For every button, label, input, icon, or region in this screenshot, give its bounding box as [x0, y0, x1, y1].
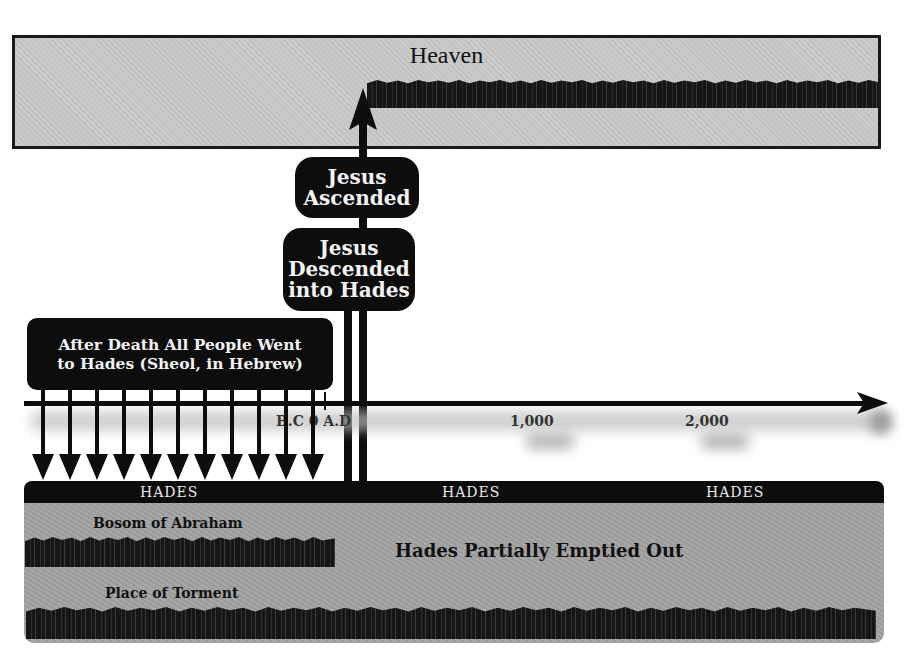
tick-label-2000: 2,000 [685, 413, 729, 429]
hades-label-1: HADES [140, 484, 198, 500]
jesus-ascended-box: Jesus Ascended [295, 157, 419, 218]
after-death-line1: After Death All People Went [58, 335, 301, 354]
jesus-descended-line2: Descended [288, 259, 409, 280]
hades-partially-emptied-label: Hades Partially Emptied Out [395, 540, 683, 561]
place-of-torment-label: Place of Torment [105, 585, 238, 601]
bosom-crowd [25, 537, 335, 567]
torment-crowd [26, 607, 876, 639]
heaven-crowd [367, 80, 879, 108]
jesus-ascended-line2: Ascended [304, 188, 411, 209]
bosom-of-abraham-label: Bosom of Abraham [93, 515, 242, 531]
jesus-descended-line3: into Hades [288, 280, 410, 301]
after-death-box: After Death All People Went to Hades (Sh… [27, 318, 333, 390]
timeline-shadow-blob-1000 [525, 432, 575, 450]
heaven-title: Heaven [15, 42, 878, 69]
after-death-line2: to Hades (Sheol, in Hebrew) [57, 354, 303, 373]
hades-label-2: HADES [442, 484, 500, 500]
jesus-ascended-line1: Jesus [327, 167, 386, 188]
jesus-descended-box: Jesus Descended into Hades [283, 228, 415, 311]
tick-label-1000: 1,000 [510, 413, 554, 429]
timeline-shadow-blob-2000 [700, 432, 750, 450]
jesus-descended-line1: Jesus [319, 238, 378, 259]
hades-label-3: HADES [706, 484, 764, 500]
death-arrows-icon [28, 390, 328, 482]
